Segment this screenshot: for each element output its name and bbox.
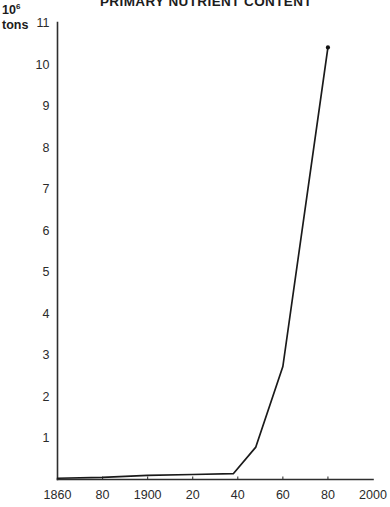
y-tick-label: 1 [43, 431, 50, 445]
x-tick-label: 60 [276, 488, 290, 502]
x-tick-label: 40 [231, 488, 245, 502]
y-tick-label: 6 [43, 224, 50, 238]
series-end-marker [326, 45, 330, 49]
y-tick-label: 8 [43, 141, 50, 155]
y-tick-label: 10 [36, 58, 50, 72]
chart-figure: PRIMARY NUTRIENT CONTENT 106 tons 123456… [0, 0, 390, 507]
y-tick-label: 11 [37, 16, 50, 30]
x-tick-label: 80 [321, 488, 335, 502]
x-tick-label: 1900 [134, 488, 162, 502]
y-tick-label: 2 [43, 390, 50, 404]
y-tick-label: 4 [43, 307, 50, 321]
x-tick-label-group: 1860801900204060802000 [44, 488, 387, 502]
x-tick-label: 20 [186, 488, 200, 502]
y-tick-label: 9 [43, 99, 50, 113]
y-tick-label: 5 [43, 265, 50, 279]
y-tick-label-group: 1234567891011 [36, 16, 50, 445]
data-line-primary-nutrient [58, 47, 328, 478]
x-tick-label: 1860 [44, 488, 72, 502]
y-tick-label: 3 [43, 348, 50, 362]
x-tick-label: 80 [96, 488, 110, 502]
plot-area: 1234567891011 1860801900204060802000 [0, 0, 390, 507]
y-tick-label: 7 [43, 182, 50, 196]
x-tick-label: 2000 [359, 488, 387, 502]
